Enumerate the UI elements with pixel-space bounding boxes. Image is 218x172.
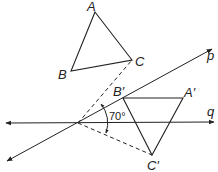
dashed-segment-oc-prime xyxy=(78,123,152,155)
label-b-prime: B′ xyxy=(113,84,125,99)
label-a-prime: A′ xyxy=(183,85,196,100)
label-c: C xyxy=(135,54,145,69)
line-q xyxy=(6,122,214,123)
angle-arc xyxy=(101,104,108,133)
label-a: A xyxy=(86,0,96,14)
triangle-abc xyxy=(71,12,132,71)
label-line-p: p xyxy=(206,48,214,63)
label-line-q: q xyxy=(207,104,215,119)
rotation-diagram: A B C B′ A′ C′ p q 70° xyxy=(0,0,218,172)
angle-label: 70° xyxy=(109,110,126,122)
line-p xyxy=(7,49,212,161)
label-b: B xyxy=(58,67,67,82)
label-c-prime: C′ xyxy=(147,158,159,172)
